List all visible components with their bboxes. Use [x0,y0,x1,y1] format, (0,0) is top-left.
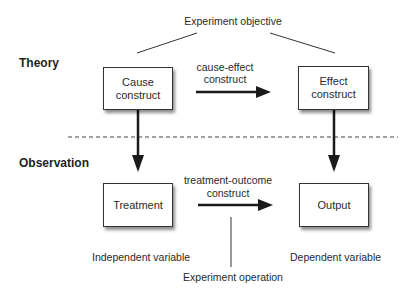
output-label: Output [317,199,350,212]
cause-construct-line1: Cause [116,76,161,89]
objective-line-left [137,33,197,53]
treatment-box: Treatment [103,183,173,227]
treatment-label: Treatment [113,199,163,212]
effect-output-arrowhead [328,155,340,172]
output-box: Output [299,183,369,227]
theory-section-label: Theory [19,56,59,70]
effect-construct-box: Effect construct [298,66,369,110]
effect-construct-line2: construct [311,88,356,101]
treatment-outcome-arrowhead [258,199,273,211]
cause-treatment-arrowhead [132,155,144,172]
treatment-outcome-label-line1: treatment-outcome [184,174,272,186]
experiment-objective-label: Experiment objective [184,15,281,27]
cause-effect-arrowhead [256,86,271,98]
independent-variable-label: Independent variable [92,251,190,263]
cause-construct-box: Cause construct [103,67,173,110]
dependent-variable-label: Dependent variable [290,251,381,263]
objective-line-right [270,33,335,53]
effect-construct-line1: Effect [311,75,356,88]
cause-effect-label-line2: construct [204,73,247,85]
observation-section-label: Observation [19,156,89,170]
treatment-outcome-label-line2: construct [207,187,250,199]
cause-construct-line2: construct [116,89,161,102]
cause-effect-label-line1: cause-effect [196,61,253,73]
experiment-operation-label: Experiment operation [183,271,283,283]
